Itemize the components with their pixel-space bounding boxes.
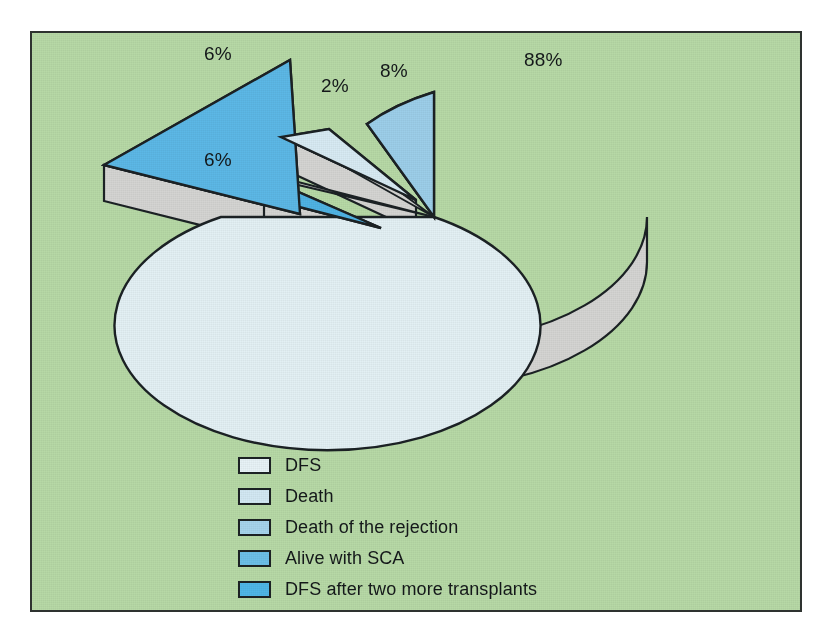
pct-label-death: 2% <box>321 75 349 97</box>
chart-frame: 6% 6% 2% 8% 88% DFS Death Death of the r… <box>30 31 802 612</box>
legend-item-death-of-the-rejection[interactable]: Death of the rejection <box>238 512 537 543</box>
legend-swatch-dfs <box>238 457 271 474</box>
legend-swatch-death <box>238 488 271 505</box>
legend-swatch-death-of-the-rejection <box>238 519 271 536</box>
legend-label-death: Death <box>285 486 334 507</box>
legend-label-death-of-the-rejection: Death of the rejection <box>285 517 458 538</box>
legend-item-dfs-after-two-more-transplants[interactable]: DFS after two more transplants <box>238 574 537 605</box>
legend-label-dfs: DFS <box>285 455 321 476</box>
legend: DFS Death Death of the rejection Alive w… <box>238 450 537 605</box>
legend-label-dfs-after-two-more-transplants: DFS after two more transplants <box>285 579 537 600</box>
legend-item-dfs[interactable]: DFS <box>238 450 537 481</box>
pct-label-dfs: 88% <box>524 49 563 71</box>
slice-dfs-face <box>114 217 540 450</box>
legend-item-alive-with-sca[interactable]: Alive with SCA <box>238 543 537 574</box>
pct-label-alive-sca: 6% <box>204 43 232 65</box>
legend-item-death[interactable]: Death <box>238 481 537 512</box>
legend-swatch-alive-with-sca <box>238 550 271 567</box>
pct-label-dfs-two: 6% <box>204 149 232 171</box>
legend-label-alive-with-sca: Alive with SCA <box>285 548 404 569</box>
pct-label-death-rejection: 8% <box>380 60 408 82</box>
legend-swatch-dfs-after-two-more-transplants <box>238 581 271 598</box>
